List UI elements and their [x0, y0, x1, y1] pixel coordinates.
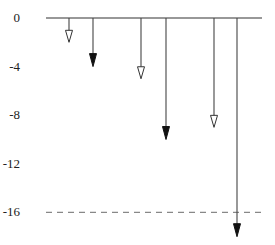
filled-arrowhead: [163, 127, 170, 140]
open-arrowhead: [138, 67, 145, 79]
y-tick-label: -4: [9, 59, 20, 74]
y-tick-label: -8: [9, 107, 20, 122]
filled-arrowhead: [234, 224, 241, 237]
filled-arrowhead: [90, 54, 97, 67]
y-tick-label: -16: [3, 204, 21, 219]
arrow-1: [66, 18, 73, 42]
arrow-2: [90, 18, 97, 67]
arrow-3: [138, 18, 145, 79]
y-tick-label: 0: [14, 10, 21, 25]
arrow-4: [163, 18, 170, 140]
open-arrowhead: [66, 30, 73, 42]
arrow-6: [234, 18, 241, 237]
arrow-chart: 0-4-8-12-16: [0, 0, 275, 245]
arrow-5: [211, 18, 218, 127]
y-tick-label: -12: [3, 156, 20, 171]
open-arrowhead: [211, 115, 218, 127]
